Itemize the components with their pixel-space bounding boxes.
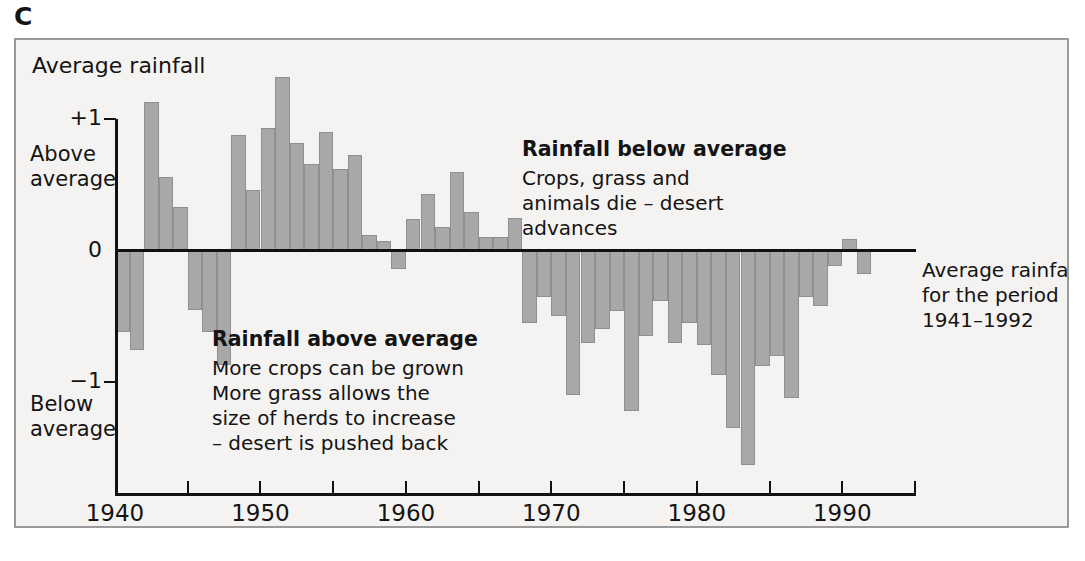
bar [159,177,174,251]
x-axis-tick [405,481,407,494]
annotation-above-average: Rainfall above average More crops can be… [212,327,478,456]
y-axis-tick [104,118,116,120]
annotation-below-average: Rainfall below average Crops, grass and … [522,137,787,241]
y-axis-caption-below: Belowaverage [30,392,116,442]
bar [551,251,566,317]
x-axis-tick [259,481,261,494]
annotation-period-note: Average rainfall for the period 1941–199… [922,258,1069,333]
bar [464,212,479,250]
bar [682,251,697,323]
bar [799,251,814,297]
y-axis-tick-label: +1 [16,107,102,129]
bar [653,251,668,301]
y-axis-tick-label-text: +1 [70,105,102,130]
y-axis-caption-above: Aboveaverage [30,142,116,192]
bar [144,102,159,251]
bar [130,251,145,351]
x-axis-tick [187,481,189,494]
annotation-period-note-line-2: for the period [922,283,1069,308]
bar [784,251,799,398]
x-axis-tick [332,481,334,494]
bar [624,251,639,411]
bar [741,251,756,465]
bar [261,128,276,250]
bar [668,251,683,343]
rainfall-bar-chart: Average rainfall +10−1 AboveaverageBelow… [14,38,1069,528]
x-axis-label: 1950 [215,500,305,526]
bar [537,251,552,297]
bar [319,132,334,250]
figure-label: C [14,2,32,32]
y-axis-tick [104,381,116,383]
x-axis-tick [550,481,552,494]
bar [202,251,217,333]
bar [755,251,770,367]
y-axis-caption-line: average [30,167,116,192]
bar [508,218,523,251]
bar [333,169,348,251]
bar [450,172,465,251]
bar [697,251,712,346]
bar [726,251,741,429]
zero-baseline [115,249,916,252]
annotation-above-average-line-2: More grass allows the [212,381,478,406]
y-axis-caption-line: Above [30,142,116,167]
plot-area: +10−1 AboveaverageBelowaverage 194019501… [16,40,1067,526]
bar [857,251,872,275]
annotation-below-average-line-2: animals die – desert [522,191,787,216]
x-axis-tick [623,481,625,494]
x-axis-tick [478,481,480,494]
annotation-period-note-line-1: Average rainfall [922,258,1069,283]
bar [828,251,843,267]
bar [711,251,726,376]
annotation-period-note-line-3: 1941–1992 [922,308,1069,333]
bar [639,251,654,337]
bar [188,251,203,310]
annotation-below-average-line-1: Crops, grass and [522,166,787,191]
bar [348,155,363,251]
x-axis-tick [914,481,916,494]
bar [770,251,785,356]
x-axis-tick [769,481,771,494]
bar [246,190,261,251]
x-axis-label: 1980 [652,500,742,526]
bar [581,251,596,343]
x-axis-label: 1940 [70,500,160,526]
y-axis-caption-line: Below [30,392,116,417]
annotation-above-average-line-1: More crops can be grown [212,356,478,381]
bar [231,135,246,251]
bar [304,164,319,251]
annotation-above-average-line-4: – desert is pushed back [212,431,478,456]
x-axis-line [115,493,916,496]
x-axis-label: 1970 [506,500,596,526]
annotation-above-average-title: Rainfall above average [212,327,478,352]
y-axis-tick-label: −1 [16,370,102,392]
y-axis-tick-label: 0 [16,239,102,261]
x-axis-tick [696,481,698,494]
bar [391,251,406,269]
y-axis-caption-line: average [30,417,116,442]
y-axis-tick-label-text: −1 [70,368,102,393]
bar [421,194,436,251]
x-axis-label: 1960 [361,500,451,526]
bar [566,251,581,396]
annotation-below-average-line-3: advances [522,216,787,241]
x-axis-label: 1990 [797,500,887,526]
bar [610,251,625,312]
bar [813,251,828,306]
y-axis-tick-label-text: 0 [88,237,102,262]
bar [173,207,188,250]
bar [435,227,450,251]
x-axis-tick [841,481,843,494]
bar [595,251,610,330]
annotation-below-average-title: Rainfall below average [522,137,787,162]
bar [522,251,537,323]
annotation-above-average-line-3: size of herds to increase [212,406,478,431]
bar [290,143,305,251]
bar [275,77,290,251]
bar [406,219,421,251]
